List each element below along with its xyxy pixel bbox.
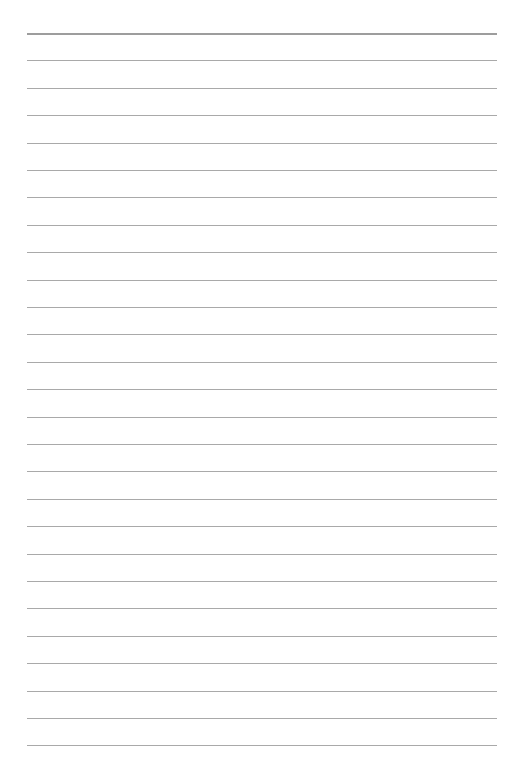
ruled-line <box>27 225 497 226</box>
ruled-line <box>27 526 497 527</box>
ruled-line <box>27 718 497 719</box>
ruled-line <box>27 663 497 664</box>
ruled-line <box>27 143 497 144</box>
ruled-line <box>27 88 497 89</box>
ruled-line <box>27 33 497 35</box>
ruled-line <box>27 499 497 500</box>
ruled-line <box>27 471 497 472</box>
ruled-line <box>27 636 497 637</box>
ruled-line <box>27 334 497 335</box>
ruled-line <box>27 170 497 171</box>
ruled-line <box>27 581 497 582</box>
ruled-line <box>27 389 497 390</box>
ruled-line <box>27 691 497 692</box>
ruled-line <box>27 608 497 609</box>
ruled-line <box>27 745 497 746</box>
ruled-line <box>27 307 497 308</box>
ruled-line <box>27 444 497 445</box>
ruled-line <box>27 115 497 116</box>
ruled-line <box>27 197 497 198</box>
ruled-line <box>27 554 497 555</box>
ruled-line <box>27 280 497 281</box>
ruled-line <box>27 60 497 61</box>
ruled-line <box>27 252 497 253</box>
lined-paper-page <box>0 0 510 778</box>
ruled-line <box>27 362 497 363</box>
ruled-line <box>27 417 497 418</box>
